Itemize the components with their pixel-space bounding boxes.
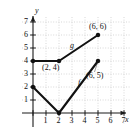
coordinate-plane — [0, 0, 136, 136]
curve-label-g: g — [70, 42, 74, 50]
x-tick-5: 5 — [96, 117, 100, 125]
x-tick-3: 3 — [70, 117, 74, 125]
y-tick-2: 2 — [24, 83, 28, 91]
point-label-2-4: (2, 4) — [42, 64, 59, 72]
x-tick-1: 1 — [44, 117, 48, 125]
y-tick-5: 5 — [24, 44, 28, 52]
x-axis-label: x — [125, 116, 129, 124]
axis-lines — [22, 16, 126, 127]
y-tick-3: 3 — [24, 70, 28, 78]
marker-f-2-0 — [57, 111, 61, 115]
x-tick-2: 2 — [57, 117, 61, 125]
y-tick-1: 1 — [24, 96, 28, 104]
x-tick-6: 6 — [109, 117, 113, 125]
y-tick-4: 4 — [24, 57, 28, 65]
y-axis-label: y — [35, 7, 39, 15]
point-label-6-6: (6, 6) — [89, 23, 106, 31]
marker-g-0-4 — [31, 59, 35, 63]
marker-g-6-6 — [96, 33, 100, 37]
point-label-6-5: (6, 5) — [86, 72, 103, 80]
curve-label-f: f — [78, 79, 80, 87]
graph-figure: x y 1 2 3 4 5 6 7 1 2 3 4 5 6 7 g f (2, … — [0, 0, 136, 136]
y-axis-arrow — [31, 16, 35, 22]
y-tick-6: 6 — [24, 31, 28, 39]
curve-g — [33, 35, 98, 61]
marker-f-0-2 — [31, 85, 35, 89]
x-tick-4: 4 — [83, 117, 87, 125]
x-tick-7: 7 — [122, 117, 126, 125]
y-tick-7: 7 — [24, 18, 28, 26]
marker-f-6-5 — [96, 59, 100, 63]
